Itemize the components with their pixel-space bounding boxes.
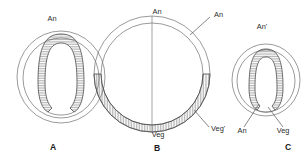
panel-a-inner-membrane — [23, 38, 99, 118]
panel-b-label-veg-right: Veg' — [211, 124, 226, 133]
panel-c-letter: C — [285, 142, 291, 152]
panel-a-label-an: An — [47, 14, 56, 23]
panel-c-label-an: An — [237, 126, 246, 135]
panel-b-label-an-top: An — [152, 7, 161, 16]
panel-b-label-veg-bottom: Veg — [152, 130, 165, 139]
panel-c-blastopore-floor — [257, 110, 275, 112]
embryo-diagram: An A An An Veg Veg' — [0, 0, 304, 156]
panel-b-label-an-right: An — [214, 10, 223, 19]
panel-c: An' An Veg C — [232, 22, 300, 152]
figure-root: An A An An Veg Veg' — [0, 0, 304, 156]
panel-b: An An Veg Veg' B — [94, 7, 226, 153]
panel-a: An A — [17, 14, 105, 152]
panel-b-letter: B — [154, 143, 160, 153]
panel-a-outer-membrane — [17, 31, 105, 123]
panel-a-blastopore-floor — [48, 112, 74, 115]
panel-c-label-an-prime: An' — [257, 22, 268, 31]
panel-a-letter: A — [50, 142, 56, 152]
panel-b-leader-veg-right — [194, 110, 209, 127]
panel-c-leader-an — [244, 104, 259, 127]
panel-c-label-veg: Veg — [277, 126, 290, 135]
panel-a-invagination-band — [30, 28, 92, 120]
panel-c-inner-membrane — [237, 50, 295, 112]
panel-b-leader-an-right — [190, 17, 210, 35]
